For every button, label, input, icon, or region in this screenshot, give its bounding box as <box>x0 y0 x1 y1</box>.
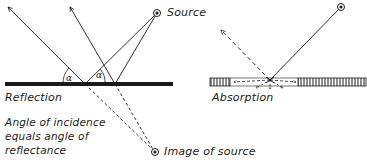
angle-alpha-left: α <box>66 73 72 83</box>
reflected-ray-2 <box>70 7 115 84</box>
reflective-surface <box>5 82 173 86</box>
image-of-source-label: Image of source <box>164 145 256 158</box>
absorption-weak-reflection <box>221 30 270 80</box>
source-point-icon <box>154 10 161 17</box>
reflection-label: Reflection <box>5 91 62 104</box>
caption-line-2: equals angle of <box>5 129 106 143</box>
source-label: Source <box>167 6 206 19</box>
image-of-source-point-icon <box>152 149 159 156</box>
absorption-source-point-icon <box>338 4 345 11</box>
angle-alpha-right: α <box>96 70 102 80</box>
caption-line-3: reflectance <box>5 143 106 157</box>
absorbing-surface-right <box>298 78 366 86</box>
virtual-ray-2 <box>115 84 154 151</box>
reflected-ray-1 <box>8 7 85 84</box>
caption-line-1: Angle of incidence <box>5 115 106 129</box>
absorption-diagram <box>210 4 366 90</box>
reflection-caption: Angle of incidence equals angle of refle… <box>5 115 106 157</box>
absorbing-surface-left <box>210 78 230 86</box>
scatter-ray-right <box>270 80 296 82</box>
scatter-ray-left <box>234 80 270 82</box>
absorption-label: Absorption <box>212 91 274 104</box>
absorption-incident-ray <box>270 7 341 80</box>
